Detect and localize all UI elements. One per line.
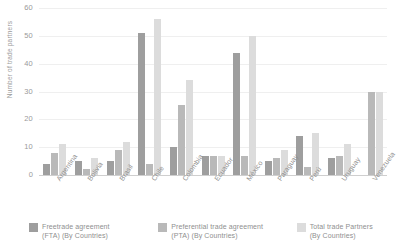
x-label-cell: Argentina (39, 176, 71, 220)
bar-fta[interactable] (328, 158, 335, 175)
bar-fta[interactable] (107, 161, 114, 175)
bar-group (102, 8, 134, 175)
bar-fta[interactable] (170, 147, 177, 175)
legend-item[interactable]: Preferential trade agreement(PTA) (By Co… (158, 222, 282, 250)
y-tick-label: 60 (24, 4, 33, 12)
y-axis: Number of trade partners 0102030405060 (0, 0, 39, 183)
bar-group (71, 8, 103, 175)
bar-pta[interactable] (241, 156, 248, 175)
x-label-cell: Uruguay (324, 176, 356, 220)
bar-pta[interactable] (368, 92, 375, 176)
y-axis-title: Number of trade partners (6, 0, 13, 125)
bar-group (229, 8, 261, 175)
y-tick-label: 50 (24, 32, 33, 40)
bar-group (39, 8, 71, 175)
bar-group (355, 8, 387, 175)
legend-swatch-icon (158, 223, 167, 232)
x-label-cell: Paraguay (260, 176, 292, 220)
bar-total[interactable] (249, 36, 256, 175)
bar-fta[interactable] (75, 161, 82, 175)
y-tick-label: 30 (24, 88, 33, 96)
bar-group (166, 8, 198, 175)
bar-group (292, 8, 324, 175)
legend-swatch-icon (297, 223, 306, 232)
x-label-cell: México (229, 176, 261, 220)
x-axis-labels: ArgentinaBoliviaBrasilChileColombiaEcuad… (39, 176, 387, 220)
x-label-cell: Bolivia (71, 176, 103, 220)
bar-group (260, 8, 292, 175)
x-label-cell: Colombia (166, 176, 198, 220)
y-tick-label: 10 (24, 143, 33, 151)
x-label-cell: Brasil (102, 176, 134, 220)
bar-pta[interactable] (336, 156, 343, 175)
chart-legend: Freetrade agreement(FTA) (By Countries)P… (29, 222, 387, 250)
legend-item[interactable]: Total trade Partners(By Countries) (297, 222, 387, 250)
bar-total[interactable] (154, 19, 161, 175)
x-label-cell: Perú (292, 176, 324, 220)
bar-groups (39, 8, 387, 175)
bar-group (324, 8, 356, 175)
x-label-cell: Venezuela (355, 176, 387, 220)
bar-pta[interactable] (178, 105, 185, 175)
y-tick-label: 20 (24, 115, 33, 123)
y-tick-label: 40 (24, 60, 33, 68)
legend-label: Preferential trade agreement(PTA) (By Co… (171, 222, 263, 240)
x-label-cell: Ecuador (197, 176, 229, 220)
legend-label: Total trade Partners(By Countries) (310, 222, 373, 240)
bar-group (197, 8, 229, 175)
bar-group (134, 8, 166, 175)
bar-fta[interactable] (138, 33, 145, 175)
legend-swatch-icon (29, 223, 38, 232)
bar-fta[interactable] (233, 53, 240, 175)
legend-item[interactable]: Freetrade agreement(FTA) (By Countries) (29, 222, 144, 250)
bar-fta[interactable] (43, 164, 50, 175)
y-tick-label: 0 (29, 171, 33, 179)
bar-fta[interactable] (265, 161, 272, 175)
bar-pta[interactable] (51, 153, 58, 175)
x-label-cell: Chile (134, 176, 166, 220)
legend-label: Freetrade agreement(FTA) (By Countries) (42, 222, 110, 240)
bar-pta[interactable] (115, 150, 122, 175)
